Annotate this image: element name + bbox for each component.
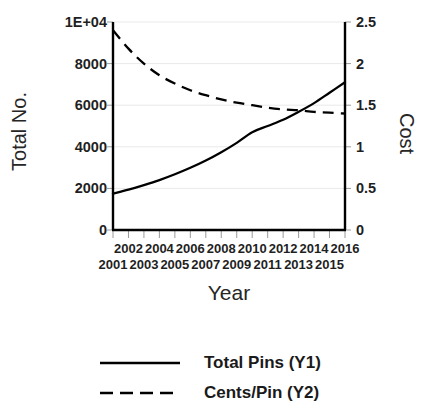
chart-legend: Total Pins (Y1) Cents/Pin (Y2) [98,348,398,405]
y-axis-right-tick-label: 0.5 [356,181,404,196]
y-axis-right-tick-label: 2.5 [356,15,404,30]
y-axis-left-tick-label: 6000 [45,98,107,113]
y-axis-right-tick-label: 0 [356,223,404,238]
x-axis-tick-label: 2015 [310,258,350,271]
y-axis-left-tick-label: 2000 [45,181,107,196]
y-axis-left-tick-label: 0 [45,223,107,238]
legend-label: Total Pins (Y1) [204,353,321,373]
legend-item-total-pins: Total Pins (Y1) [98,348,398,378]
y-axis-left-tick-label: 4000 [45,140,107,155]
legend-swatch-solid-line [98,356,182,370]
x-axis-title: Year [113,281,345,305]
y-axis-left-title: Total No. [8,72,31,192]
y-axis-left-tick-label: 8000 [45,57,107,72]
series-line-cents-per-pin [113,30,345,113]
y-axis-right-tick-label: 2 [356,57,404,72]
x-axis-tick-label: 2016 [325,242,365,255]
y-axis-left-tick-label: 1E+04 [45,15,107,30]
series-line-total-pins [113,82,345,193]
chart-figure: 1E+04 8000 6000 4000 2000 0 2.5 2 1.5 1 … [0,0,446,405]
y-axis-right-title: Cost [395,94,418,174]
legend-item-cents-per-pin: Cents/Pin (Y2) [98,378,398,405]
legend-swatch-dashed-line [98,386,182,400]
legend-label: Cents/Pin (Y2) [204,383,319,403]
